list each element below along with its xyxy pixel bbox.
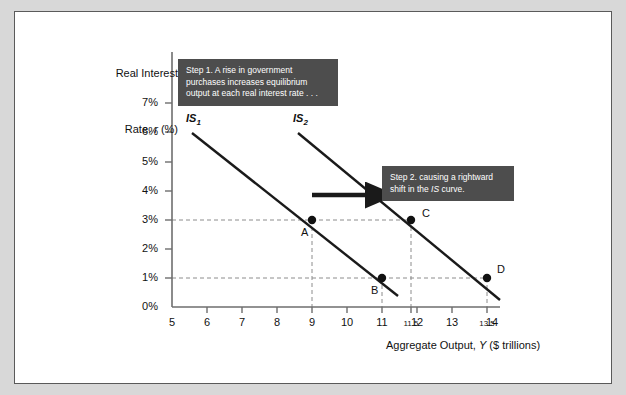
point-label-c: C (422, 207, 430, 219)
y-axis-title-suffix: (%) (158, 123, 178, 135)
y-tick-label-1: 1% (124, 271, 158, 283)
is2-label-text: IS (293, 112, 303, 124)
x-tick-label-9: 9 (299, 316, 325, 328)
step1-annotation: Step 1. A rise in government purchases i… (178, 59, 338, 106)
x-tick-label-10: 10 (334, 316, 360, 328)
x-axis-ticks (207, 307, 487, 313)
y-tick-label-5: 5% (124, 155, 158, 167)
x-tick-label-6: 6 (194, 316, 220, 328)
is1-label-text: IS (186, 112, 196, 124)
x-tick-label-14: 14 (479, 316, 505, 328)
point-dot-d (483, 274, 491, 282)
is2-curve-label: IS2 (293, 112, 308, 127)
point-label-b: B (371, 284, 378, 296)
point-label-a: A (301, 226, 308, 238)
y-tick-label-2: 2% (124, 242, 158, 254)
x-tick-label-8: 8 (264, 316, 290, 328)
point-dot-b (378, 274, 386, 282)
step2-annotation: Step 2. causing a rightward shift in the… (382, 166, 514, 201)
y-tick-label-6: 6% (124, 125, 158, 137)
x-tick-label-11: 11 (369, 316, 395, 328)
guide-lines (172, 220, 487, 307)
x-tick-label-12: 12 (404, 316, 430, 328)
y-tick-label-3: 3% (124, 213, 158, 225)
is1-curve (192, 133, 398, 296)
is1-curve-label: IS1 (186, 112, 201, 127)
y-tick-label-4: 4% (124, 184, 158, 196)
x-axis-title: Aggregate Output, Y ($ trillions) (386, 339, 566, 351)
is2-curve (298, 133, 500, 300)
step2-text-is: IS (431, 184, 439, 194)
is1-label-subscript: 1 (196, 118, 200, 127)
point-label-d: D (497, 263, 505, 275)
x-axis-title-suffix: ($ trillions) (486, 339, 540, 351)
x-axis-title-prefix: Aggregate Output, (386, 339, 479, 351)
x-tick-label-13: 13 (439, 316, 465, 328)
equilibrium-points (308, 216, 491, 282)
x-tick-label-5: 5 (159, 316, 185, 328)
y-tick-label-0: 0% (124, 300, 158, 312)
y-tick-label-7: 7% (124, 96, 158, 108)
point-dot-a (308, 216, 316, 224)
figure-container: Real Interest Rate, r (%) Aggregate Outp… (0, 0, 626, 395)
point-dot-c (407, 216, 415, 224)
step2-text-suffix: curve. (439, 184, 465, 194)
x-tick-label-7: 7 (229, 316, 255, 328)
y-axis-title-line1: Real Interest (96, 66, 178, 80)
is2-label-subscript: 2 (303, 118, 307, 127)
